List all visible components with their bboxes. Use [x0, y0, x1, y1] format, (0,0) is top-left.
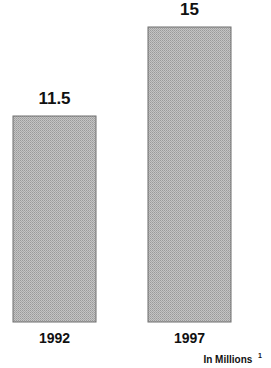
category-label-1997: 1997 — [174, 330, 205, 346]
value-label-1997: 15 — [180, 0, 199, 19]
category-label-1992: 1992 — [39, 330, 70, 346]
bar-1992 — [13, 116, 96, 322]
units-note-footnote: 1 — [258, 352, 262, 359]
bar-1997 — [148, 27, 231, 322]
units-note: In Millions 1 — [203, 352, 262, 365]
value-label-1992: 11.5 — [38, 89, 70, 108]
units-note-text: In Millions — [203, 354, 252, 365]
bar-chart: 11.51992151997 In Millions 1 — [0, 0, 271, 368]
